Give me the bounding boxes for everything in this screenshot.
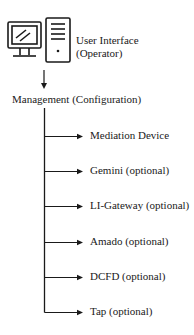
arrowhead-icon bbox=[77, 240, 83, 246]
management-label: Management (Configuration) bbox=[12, 93, 141, 106]
arrowhead-icon bbox=[77, 275, 83, 281]
arrowhead-icon bbox=[77, 204, 83, 210]
arrowhead-icon bbox=[77, 169, 83, 175]
child-label-amado: Amado (optional) bbox=[90, 235, 169, 248]
user-interface-title: User Interface bbox=[76, 34, 139, 47]
power-led-icon bbox=[57, 50, 60, 53]
child-label-gemini: Gemini (optional) bbox=[90, 164, 169, 177]
child-label-dcfd: DCFD (optional) bbox=[90, 270, 165, 283]
child-label-mediation-device: Mediation Device bbox=[90, 129, 169, 142]
user-interface-label: User Interface (Operator) bbox=[76, 34, 139, 60]
user-interface-subtitle: (Operator) bbox=[76, 47, 139, 60]
computer-workstation-icon bbox=[8, 18, 70, 62]
child-label-tap: Tap (optional) bbox=[90, 305, 152, 318]
child-label-li-gateway: LI-Gateway (optional) bbox=[90, 199, 189, 212]
arrowhead-icon bbox=[77, 310, 83, 316]
root-to-management-arrow bbox=[41, 70, 47, 89]
arrowhead-icon bbox=[77, 134, 83, 140]
